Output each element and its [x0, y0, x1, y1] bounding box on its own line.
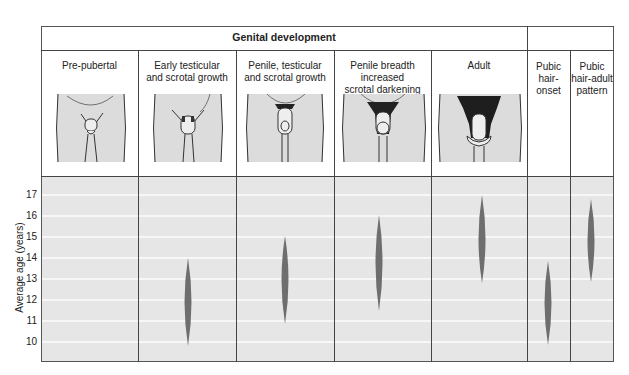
column-heading-pubic-hair-onset: Pubic hair-onset: [527, 61, 570, 97]
age-range-penile-breadth: [372, 215, 386, 311]
column-divider: [138, 50, 139, 362]
heading-line: Pubic: [570, 61, 614, 73]
heading-line: Pre-pubertal: [41, 60, 138, 72]
heading-line: and scrotal growth: [138, 72, 236, 84]
age-range-penile-growth: [278, 236, 292, 324]
column-heading-early-testicular: Early testicular and scrotal growth: [138, 60, 236, 84]
age-range-pubic-hair-adult: [584, 199, 598, 282]
y-tick-12: 12: [17, 294, 37, 305]
adult-genitalia-illustration: [437, 92, 523, 164]
y-tick-14: 14: [17, 252, 37, 263]
heading-line: Penile breadth increased: [334, 60, 431, 84]
penile-growth-illustration: [245, 94, 325, 164]
heading-line: hair-adult: [570, 73, 614, 85]
age-range-adult: [475, 195, 489, 283]
y-tick-17: 17: [17, 189, 37, 200]
column-divider: [431, 50, 432, 362]
y-tick-13: 13: [17, 273, 37, 284]
heading-line: and scrotal growth: [236, 72, 334, 84]
y-tick-15: 15: [17, 231, 37, 242]
group-title: Genital development: [41, 31, 527, 43]
heading-line: Penile, testicular: [236, 60, 334, 72]
y-tick-11: 11: [17, 315, 37, 326]
column-divider: [236, 50, 237, 362]
column-heading-penile-growth: Penile, testicular and scrotal growth: [236, 60, 334, 84]
age-range-early-testicular: [181, 258, 195, 346]
column-heading-pre-pubertal: Pre-pubertal: [41, 60, 138, 72]
penile-breadth-illustration: [341, 94, 427, 164]
column-heading-penile-breadth: Penile breadth increased scrotal darkeni…: [334, 60, 431, 96]
heading-line: Pubic: [527, 61, 570, 73]
header-divider: [41, 50, 614, 51]
heading-line: Adult: [431, 60, 527, 72]
heading-line: hair-onset: [527, 73, 570, 97]
column-heading-pubic-hair-adult: Pubic hair-adult pattern: [570, 61, 614, 97]
pre-pubertal-genitalia-illustration: [55, 94, 127, 164]
heading-line: pattern: [570, 85, 614, 97]
age-range-pubic-hair-onset: [541, 261, 555, 345]
early-testicular-growth-illustration: [152, 94, 224, 164]
y-tick-16: 16: [17, 210, 37, 221]
column-heading-adult: Adult: [431, 60, 527, 72]
y-tick-10: 10: [17, 336, 37, 347]
column-divider: [334, 50, 335, 362]
heading-line: Early testicular: [138, 60, 236, 72]
y-axis-label: Average age (years): [14, 213, 25, 323]
